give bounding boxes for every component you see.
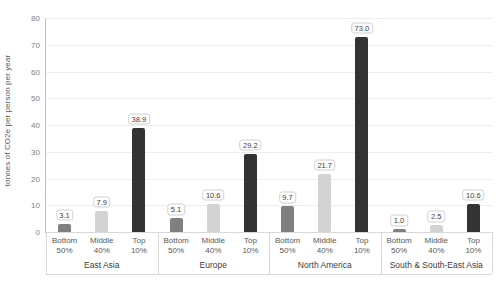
x-axis-category-line: 40% xyxy=(90,246,114,256)
x-axis-category-line: Middle xyxy=(424,236,448,246)
bar xyxy=(355,37,368,232)
gridline xyxy=(46,72,492,73)
gridline xyxy=(46,152,492,153)
x-axis-category-label: Top10% xyxy=(242,236,258,256)
group-separator xyxy=(269,232,270,274)
y-axis-title-text: tonnes of CO2e per person per year xyxy=(4,54,13,185)
plot-area: 3.17.938.95.110.629.29.721.773.01.02.510… xyxy=(46,18,492,232)
bar xyxy=(467,204,480,232)
x-axis-category-line: 40% xyxy=(424,246,448,256)
bar xyxy=(170,218,183,232)
x-axis-category-line: Top xyxy=(131,236,147,246)
x-axis-category-line: 40% xyxy=(201,246,225,256)
x-axis-category-line: 50% xyxy=(275,246,300,256)
gridline xyxy=(46,125,492,126)
x-axis-category-label: Bottom50% xyxy=(386,236,411,256)
x-axis-group-label: East Asia xyxy=(84,260,119,270)
x-axis-category-line: 50% xyxy=(386,246,411,256)
x-axis-category-label: Top10% xyxy=(131,236,147,256)
bar-value-label: 3.1 xyxy=(56,209,73,221)
x-axis-group-label: South & South-East Asia xyxy=(390,260,483,270)
gridline xyxy=(46,18,492,19)
bar xyxy=(393,229,406,232)
bar xyxy=(58,224,71,232)
bar xyxy=(318,174,331,232)
x-axis-category-label: Bottom50% xyxy=(52,236,77,256)
gridline xyxy=(46,98,492,99)
x-axis-category-label: Bottom50% xyxy=(163,236,188,256)
bar-value-label: 5.1 xyxy=(167,204,184,216)
bar-value-label: 9.7 xyxy=(279,192,296,204)
x-axis-category-line: 10% xyxy=(131,246,147,256)
y-axis-tick-label: 50 xyxy=(20,94,40,103)
y-axis-tick-label: 40 xyxy=(20,121,40,130)
x-axis-category-label: Middle40% xyxy=(313,236,337,256)
x-axis-category-line: 50% xyxy=(163,246,188,256)
y-axis-tick-label: 20 xyxy=(20,174,40,183)
bar xyxy=(430,225,443,232)
y-axis-tick-label: 70 xyxy=(20,40,40,49)
x-axis-category-line: 10% xyxy=(465,246,481,256)
bar xyxy=(281,206,294,232)
bar-value-label: 10.6 xyxy=(202,189,224,201)
x-axis-group-label: Europe xyxy=(200,260,227,270)
x-axis-category-label: Top10% xyxy=(354,236,370,256)
bar-value-label: 7.9 xyxy=(93,196,110,208)
x-axis-category-line: 40% xyxy=(313,246,337,256)
x-axis-bottom-line xyxy=(46,274,492,275)
y-axis-tick-label: 10 xyxy=(20,201,40,210)
group-separator xyxy=(381,232,382,274)
bar-value-label: 29.2 xyxy=(240,139,262,151)
bar-value-label: 73.0 xyxy=(351,22,373,34)
y-axis-title: tonnes of CO2e per person per year xyxy=(0,0,16,240)
x-axis-category-line: Bottom xyxy=(275,236,300,246)
x-axis-category-line: Top xyxy=(242,236,258,246)
y-axis-tick-label: 30 xyxy=(20,147,40,156)
x-axis-category-line: Middle xyxy=(90,236,114,246)
group-separator xyxy=(158,232,159,274)
gridline xyxy=(46,179,492,180)
x-axis-category-label: Bottom50% xyxy=(275,236,300,256)
bar xyxy=(244,154,257,232)
x-axis-category-label: Middle40% xyxy=(90,236,114,256)
bar-value-label: 1.0 xyxy=(390,215,407,227)
x-axis-category-line: 50% xyxy=(52,246,77,256)
bar xyxy=(95,211,108,232)
x-axis-category-line: Bottom xyxy=(52,236,77,246)
x-axis-category-line: 10% xyxy=(242,246,258,256)
bar-value-label: 2.5 xyxy=(428,211,445,223)
gridline xyxy=(46,205,492,206)
bar-value-label: 10.6 xyxy=(463,189,485,201)
bar-chart: tonnes of CO2e per person per year 01020… xyxy=(0,0,498,284)
x-axis-category-line: 10% xyxy=(354,246,370,256)
bar xyxy=(207,204,220,232)
group-separator xyxy=(46,232,47,274)
x-axis-category-line: Middle xyxy=(313,236,337,246)
x-axis-category-line: Bottom xyxy=(163,236,188,246)
x-axis-category-label: Middle40% xyxy=(424,236,448,256)
bar xyxy=(132,128,145,232)
y-axis-tick-label: 80 xyxy=(20,14,40,23)
group-separator xyxy=(492,232,493,274)
x-axis-category-line: Top xyxy=(354,236,370,246)
x-axis-category-line: Middle xyxy=(201,236,225,246)
x-axis-category-line: Bottom xyxy=(386,236,411,246)
bar-value-label: 21.7 xyxy=(314,159,336,171)
x-axis-category-line: Top xyxy=(465,236,481,246)
x-axis-category-label: Top10% xyxy=(465,236,481,256)
bar-value-label: 38.9 xyxy=(128,113,150,125)
x-axis-group-label: North America xyxy=(298,260,352,270)
y-axis-tick-label: 60 xyxy=(20,67,40,76)
y-axis-tick-label: 0 xyxy=(20,228,40,237)
x-axis-category-label: Middle40% xyxy=(201,236,225,256)
gridline xyxy=(46,45,492,46)
